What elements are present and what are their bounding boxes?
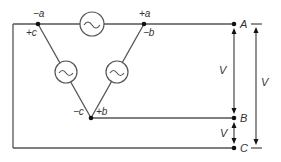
delta-circuit-diagram: −a +c +a −b −c +b A B C V V V <box>0 0 281 162</box>
voltage-arrow-ab <box>232 28 237 114</box>
terminal-c-label: C <box>240 142 248 154</box>
node-top-left <box>36 22 41 27</box>
label-minus-b: −b <box>143 27 155 38</box>
voltage-label-ab: V <box>219 64 228 76</box>
voltage-arrow-bc <box>232 122 237 144</box>
node-bottom <box>89 116 94 121</box>
label-minus-a: −a <box>33 8 45 19</box>
source-b-icon <box>106 61 128 83</box>
node-top-right <box>142 22 147 27</box>
terminal-b-dot <box>232 116 237 121</box>
voltage-label-bc: V <box>220 127 229 139</box>
terminal-c-dot <box>232 146 237 151</box>
terminal-a-dot <box>232 22 237 27</box>
terminal-a-label: A <box>239 18 247 30</box>
label-plus-a: +a <box>139 8 151 19</box>
voltage-label-ac: V <box>261 76 270 88</box>
terminal-b-label: B <box>240 112 247 124</box>
source-a-icon <box>80 12 104 36</box>
label-plus-b: +b <box>96 106 108 117</box>
label-plus-c: +c <box>26 27 37 38</box>
voltage-arrow-ac <box>254 27 259 145</box>
source-c-icon <box>55 61 77 83</box>
label-minus-c: −c <box>73 106 84 117</box>
